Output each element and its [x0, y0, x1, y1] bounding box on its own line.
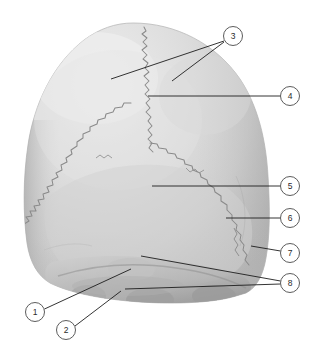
- skull-illustration: [0, 0, 325, 363]
- right-parietal-eminence: [159, 55, 251, 135]
- callout-number-6: 6: [288, 213, 293, 223]
- callout-number-3: 3: [231, 31, 236, 41]
- inferior-nuchal-ridge: [72, 276, 184, 296]
- callout-number-8: 8: [288, 278, 293, 288]
- mastoid-process-right: [192, 285, 236, 307]
- callout-number-7: 7: [288, 248, 293, 258]
- callout-number-1: 1: [33, 307, 38, 317]
- callout-number-2: 2: [64, 325, 69, 335]
- callout-number-5: 5: [288, 181, 293, 191]
- callout-number-4: 4: [288, 91, 293, 101]
- callout-2[interactable]: 2: [57, 291, 122, 340]
- skull-figure-canvas: 12345678: [0, 0, 325, 363]
- anatomy-figure: 12345678 Skull, posterior view: [0, 0, 325, 363]
